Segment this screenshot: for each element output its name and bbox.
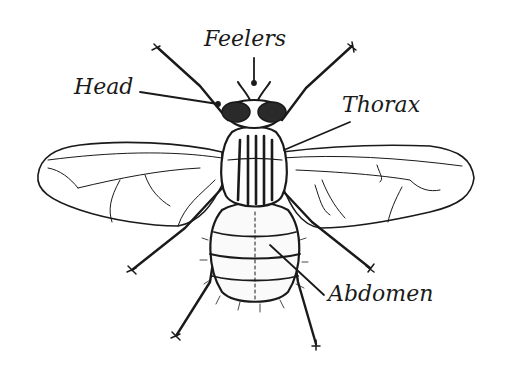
left-eye bbox=[222, 102, 250, 122]
thorax bbox=[221, 127, 287, 207]
label-thorax: Thorax bbox=[342, 94, 420, 116]
label-feelers: Feelers bbox=[204, 28, 286, 50]
abdomen bbox=[200, 203, 308, 313]
fly-diagram: Feelers Head Thorax Abdomen bbox=[0, 0, 509, 378]
fly-illustration bbox=[0, 0, 509, 378]
label-abdomen: Abdomen bbox=[328, 283, 433, 305]
head bbox=[222, 82, 286, 128]
right-eye bbox=[258, 102, 286, 122]
label-head: Head bbox=[74, 76, 133, 98]
right-wing bbox=[282, 145, 474, 228]
left-wing bbox=[38, 142, 222, 226]
